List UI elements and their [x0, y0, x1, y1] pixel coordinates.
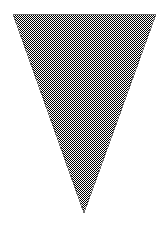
figure-canvas: [0, 0, 168, 231]
inverted-triangle-svg: [0, 0, 168, 231]
